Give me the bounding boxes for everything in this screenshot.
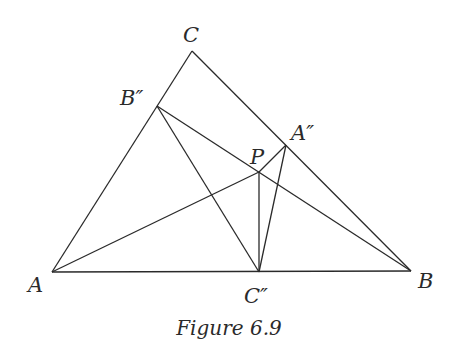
label-A: A bbox=[26, 273, 43, 297]
label-P: P bbox=[249, 145, 265, 169]
label-B: B bbox=[417, 269, 433, 293]
diagram-canvas: C B″ A″ P A B C″ Figure 6.9 bbox=[0, 0, 458, 347]
label-C: C bbox=[183, 23, 199, 47]
segment-B2-C2 bbox=[157, 106, 259, 272]
segment-B2-B bbox=[157, 106, 411, 271]
figure-caption: Figure 6.9 bbox=[175, 316, 282, 340]
label-C2: C″ bbox=[244, 284, 268, 308]
segment-B-C bbox=[192, 51, 411, 271]
segment-A-B bbox=[52, 271, 411, 272]
label-B2: B″ bbox=[119, 86, 143, 110]
label-A2: A″ bbox=[289, 121, 314, 145]
figure: C B″ A″ P A B C″ Figure 6.9 bbox=[0, 0, 458, 347]
